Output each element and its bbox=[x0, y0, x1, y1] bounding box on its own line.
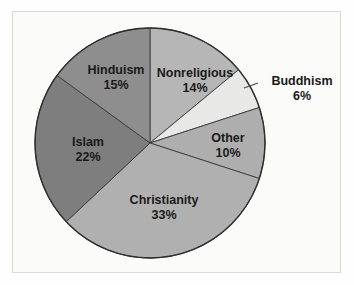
pie-chart: Nonreligious14%Buddhism6%Other10%Christi… bbox=[0, 0, 354, 285]
slice-name-nonreligious: Nonreligious bbox=[157, 66, 233, 80]
slice-value-islam: 22% bbox=[75, 150, 100, 164]
slice-value-buddhism: 6% bbox=[293, 89, 311, 103]
slice-name-buddhism: Buddhism bbox=[271, 74, 332, 88]
pie-chart-page: Nonreligious14%Buddhism6%Other10%Christi… bbox=[0, 0, 354, 285]
slice-name-hinduism: Hinduism bbox=[88, 63, 145, 77]
slice-value-christianity: 33% bbox=[151, 208, 176, 222]
slice-name-islam: Islam bbox=[72, 135, 104, 149]
slice-value-nonreligious: 14% bbox=[182, 81, 207, 95]
slice-value-hinduism: 15% bbox=[103, 78, 128, 92]
slice-value-other: 10% bbox=[215, 146, 240, 160]
slice-name-other: Other bbox=[211, 131, 244, 145]
slice-name-christianity: Christianity bbox=[130, 193, 199, 207]
